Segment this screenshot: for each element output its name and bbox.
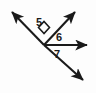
angle-label-6: 6	[56, 31, 62, 43]
rays-group	[12, 12, 87, 80]
angle-label-7: 7	[54, 48, 60, 60]
angle-diagram-figure: 5 6 7	[0, 0, 96, 93]
angle-label-5: 5	[36, 16, 42, 28]
ray-lower-right	[44, 45, 83, 80]
geometry-canvas: 5 6 7	[0, 0, 96, 93]
